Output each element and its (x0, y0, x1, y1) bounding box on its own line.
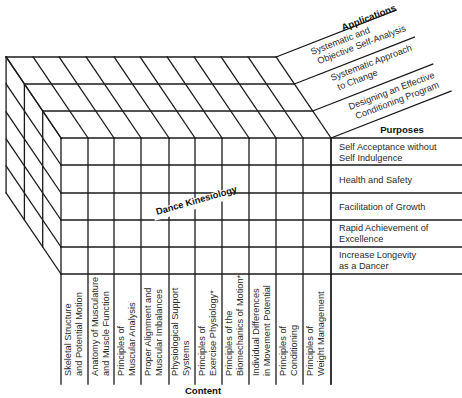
purpose-item: Increase Longevity as a Dancer (339, 250, 417, 271)
svg-text:Skeletal Structure: Skeletal Structure (63, 303, 73, 376)
svg-text:Principles of: Principles of (197, 326, 207, 376)
content-item: Principles of Weight Management (305, 291, 326, 376)
svg-text:Self Acceptance without: Self Acceptance without (339, 142, 437, 152)
svg-text:Principles of: Principles of (116, 326, 126, 376)
purpose-item: Rapid Achievement of Excellence (339, 223, 429, 244)
svg-text:Principles of: Principles of (278, 326, 288, 376)
svg-text:Self Indulgence: Self Indulgence (339, 153, 402, 163)
top-diagonal-line (33, 57, 88, 138)
svg-text:Systems: Systems (181, 340, 191, 376)
svg-text:Muscular Imbalances: Muscular Imbalances (154, 289, 164, 376)
left-diagonal-line (6, 139, 61, 220)
svg-text:as a Dancer: as a Dancer (339, 261, 389, 271)
top-diagonal-line (248, 57, 303, 138)
content-axis-label: Content (185, 385, 222, 396)
top-diagonal-line (140, 57, 195, 138)
svg-text:and Muscle Function: and Muscle Function (101, 291, 111, 376)
svg-text:Proper Alignment and: Proper Alignment and (143, 288, 153, 376)
purpose-item: Health and Safety (339, 175, 412, 185)
svg-text:Facilitation of Growth: Facilitation of Growth (339, 202, 425, 212)
svg-text:Principles of: Principles of (305, 326, 315, 376)
left-diagonal-line (6, 193, 61, 274)
svg-text:Muscular Analysis: Muscular Analysis (127, 302, 137, 376)
content-item: Principles of Exercise Physiology* (197, 290, 218, 376)
svg-text:Increase Longevity: Increase Longevity (339, 250, 417, 260)
svg-text:and Potential Motion: and Potential Motion (74, 292, 84, 376)
svg-text:Anatomy of Musculature: Anatomy of Musculature (90, 277, 100, 376)
svg-text:Weight Management: Weight Management (316, 291, 326, 376)
content-item: Skeletal Structure and Potential Motion (63, 292, 84, 376)
svg-text:Excellence: Excellence (339, 234, 383, 244)
content-item: Individual Differences in Movement Poten… (251, 285, 272, 376)
left-diagonal-line (6, 57, 61, 138)
svg-text:Principles of the: Principles of the (224, 311, 234, 376)
svg-text:Conditioning: Conditioning (289, 325, 299, 376)
svg-text:Physiological Support: Physiological Support (170, 287, 180, 376)
content-item: Anatomy of Musculature and Muscle Functi… (90, 277, 111, 376)
svg-text:Health and Safety: Health and Safety (339, 175, 412, 185)
top-diagonal-line (167, 57, 222, 138)
top-diagonal-line (276, 57, 331, 138)
svg-text:Exercise Physiology*: Exercise Physiology* (208, 290, 218, 376)
svg-text:Biomechanics of Motion*: Biomechanics of Motion* (235, 274, 245, 376)
top-diagonal-line (59, 57, 114, 138)
top-diagonal-line (194, 57, 249, 138)
content-item: Principles of Conditioning (278, 325, 299, 376)
svg-text:Individual Differences: Individual Differences (251, 288, 261, 376)
content-item: Principles of Muscular Analysis (116, 302, 137, 376)
content-item: Proper Alignment and Muscular Imbalances (143, 288, 164, 376)
top-diagonal-line (221, 57, 276, 138)
purpose-item: Self Acceptance without Self Indulgence (339, 142, 437, 163)
purposes-axis-label: Purposes (380, 124, 424, 135)
content-item: Physiological Support Systems (170, 287, 191, 376)
top-diagonal-line (114, 57, 169, 138)
content-item: Principles of the Biomechanics of Motion… (224, 274, 245, 376)
top-diagonal-line (86, 57, 141, 138)
left-diagonal-line (6, 166, 61, 247)
svg-text:Rapid Achievement of: Rapid Achievement of (339, 223, 429, 233)
purpose-item: Facilitation of Growth (339, 202, 425, 212)
dance-kinesiology-cube-diagram: Applications Systematic and Objective Se… (0, 0, 462, 398)
svg-text:in Movement Potential: in Movement Potential (262, 285, 272, 376)
